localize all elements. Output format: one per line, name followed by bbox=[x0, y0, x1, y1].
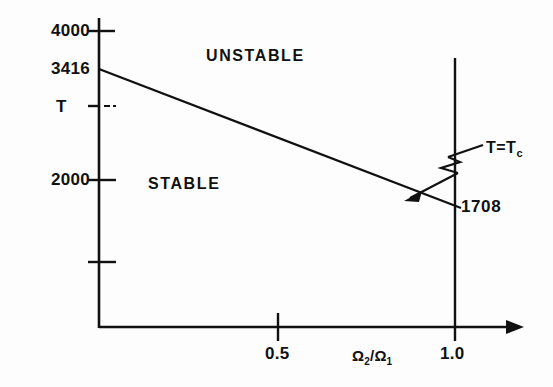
annotation-arrowhead bbox=[404, 191, 422, 202]
annotation-leader-upper bbox=[448, 145, 483, 157]
region-label-stable: STABLE bbox=[148, 176, 220, 192]
annotation-tc-text: T=T bbox=[486, 139, 516, 156]
annotation-label-critical-temperature: T=Tc bbox=[486, 140, 523, 159]
region-label-unstable: UNSTABLE bbox=[206, 48, 305, 64]
y-tick-label-2000: 2000 bbox=[16, 171, 90, 188]
chart-figure: 4000 3416 2000 T UNSTABLE STABLE 1708 T=… bbox=[0, 0, 553, 387]
y-tick-label-4000: 4000 bbox=[16, 22, 90, 39]
x-tick-label-10: 1.0 bbox=[440, 345, 465, 362]
x-axis-arrowhead bbox=[506, 320, 524, 334]
x-tick-label-05: 0.5 bbox=[265, 345, 290, 362]
x-axis-title: Ω2/Ω1 bbox=[352, 348, 392, 367]
y-tick-label-3416: 3416 bbox=[16, 60, 90, 77]
x-axis-title-numerator: Ω bbox=[352, 347, 364, 364]
y-axis-title: T bbox=[56, 98, 67, 115]
x-axis-title-denominator-subscript: 1 bbox=[387, 356, 393, 367]
annotation-leader-zigzag bbox=[441, 157, 460, 173]
endpoint-value-label-1708: 1708 bbox=[461, 198, 501, 215]
annotation-tc-subscript: c bbox=[516, 147, 522, 159]
x-axis-title-denominator: Ω bbox=[374, 347, 386, 364]
